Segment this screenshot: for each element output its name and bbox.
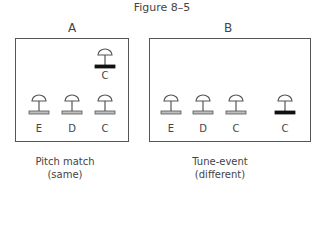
caption-line: Tune-event	[170, 155, 270, 168]
bell-label: D	[195, 123, 211, 134]
bell-label: D	[64, 123, 80, 134]
bell-label: C	[277, 123, 293, 134]
bell-icon-a-d	[62, 95, 82, 114]
bell-label: C	[97, 123, 113, 134]
bell-label: E	[31, 123, 47, 134]
bell-label: E	[163, 123, 179, 134]
bell-icon-a-top-c	[95, 49, 115, 68]
caption-line: (different)	[170, 168, 270, 181]
panel-b-caption: Tune-event (different)	[170, 155, 270, 181]
bell-label: C	[228, 123, 244, 134]
caption-line: (same)	[20, 168, 110, 181]
bell-icon-b-d	[193, 95, 213, 114]
bell-icon-a-e	[29, 95, 49, 114]
panel-a-caption: Pitch match (same)	[20, 155, 110, 181]
bell-label: C	[97, 70, 113, 81]
bell-icon-a-c	[95, 95, 115, 114]
bell-icon-b-c-dark	[275, 95, 295, 114]
caption-line: Pitch match	[20, 155, 110, 168]
bell-icon-b-e	[161, 95, 181, 114]
bell-icon-b-c	[226, 95, 246, 114]
